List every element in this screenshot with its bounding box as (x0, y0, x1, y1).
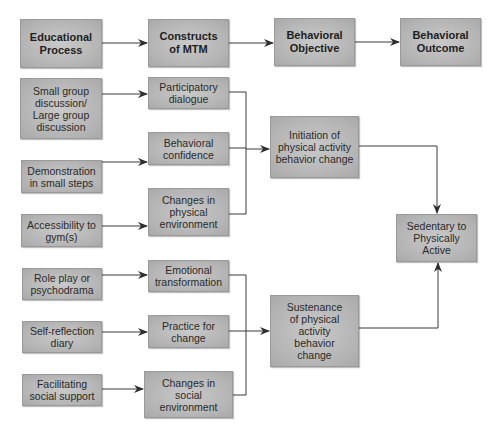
accessibility-box: Accessibility to gym(s) (21, 214, 102, 247)
box-label: Role play or psychodrama (22, 272, 101, 296)
practice-for-change-box: Practice for change (148, 315, 229, 348)
box-label: Facilitating social support (23, 378, 101, 402)
behavioral-outcome-box: Behavioral Outcome (400, 18, 481, 66)
box-label: Initiation of physical activity behavior… (271, 129, 358, 165)
sedentary-to-active-box: Sedentary to Physically Active (396, 214, 477, 262)
box-label: Small group discussion/ Large group disc… (21, 85, 101, 133)
box-label: Sustenance of physical activity behavior… (271, 301, 358, 361)
box-label: Sedentary to Physically Active (397, 220, 476, 256)
changes-physical-environment-box: Changes in physical environment (148, 188, 229, 236)
box-label: Emotional transformation (149, 264, 228, 288)
box-label: Changes in social environment (145, 377, 232, 413)
box-label: Participatory dialogue (149, 81, 228, 105)
behavioral-objective-box: Behavioral Objective (274, 18, 355, 66)
box-label: Behavioral Objective (275, 29, 354, 55)
changes-social-environment-box: Changes in social environment (144, 371, 233, 418)
box-label: Constructs of MTM (149, 30, 228, 56)
constructs-of-mtm-box: Constructs of MTM (148, 19, 229, 67)
box-label: Self-reflection diary (23, 325, 101, 349)
facilitating-social-support-box: Facilitating social support (22, 374, 102, 406)
educational-process-box: Educational Process (20, 19, 102, 68)
box-label: Educational Process (21, 31, 101, 57)
box-label: Behavioral confidence (149, 137, 228, 161)
role-play-box: Role play or psychodrama (22, 268, 102, 300)
small-group-discussion-box: Small group discussion/ Large group disc… (20, 78, 102, 139)
self-reflection-box: Self-reflection diary (22, 321, 102, 353)
participatory-dialogue-box: Participatory dialogue (148, 77, 229, 109)
box-label: Demonstration in small steps (22, 165, 101, 189)
emotional-transformation-box: Emotional transformation (148, 260, 229, 292)
box-label: Behavioral Outcome (401, 29, 480, 55)
initiation-box: Initiation of physical activity behavior… (270, 116, 359, 178)
sustenance-box: Sustenance of physical activity behavior… (270, 295, 359, 367)
box-label: Accessibility to gym(s) (22, 219, 101, 243)
box-label: Practice for change (149, 320, 228, 344)
box-label: Changes in physical environment (149, 194, 228, 230)
demonstration-box: Demonstration in small steps (21, 160, 102, 193)
behavioral-confidence-box: Behavioral confidence (148, 132, 229, 165)
